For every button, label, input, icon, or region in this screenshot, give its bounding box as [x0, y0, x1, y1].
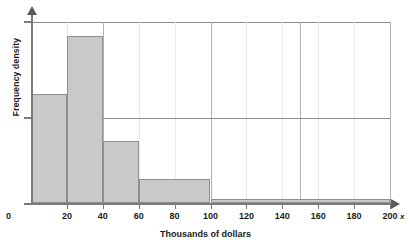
- x-axis-line: [24, 203, 393, 205]
- x-tick-100: [211, 203, 212, 209]
- gridline-x-200: [390, 22, 391, 203]
- x-tick-60: [139, 203, 140, 209]
- y-axis-line: [31, 14, 33, 203]
- histogram-bar: [103, 141, 139, 203]
- x-tick-20: [67, 203, 68, 209]
- x-tick-140: [282, 203, 283, 209]
- x-axis-arrow-icon: [391, 199, 400, 209]
- gridline-x-100: [211, 22, 212, 203]
- x-tick-label-40: 40: [88, 211, 118, 221]
- x-tick-label-60: 60: [124, 211, 154, 221]
- gridline-x-160: [318, 22, 319, 203]
- x-tick-180: [354, 203, 355, 209]
- gridline-x-150: [300, 22, 301, 203]
- x-tick-120: [246, 203, 247, 209]
- gridline-x-140: [282, 22, 283, 203]
- plot-area: [31, 22, 390, 203]
- x-tick-label-120: 120: [231, 211, 261, 221]
- x-axis-title: Thousands of dollars: [0, 229, 411, 239]
- gridline-x-180: [354, 22, 355, 203]
- histogram-chart: 20406080100120140160180200 0 x Frequency…: [0, 0, 411, 247]
- x-tick-label-140: 140: [267, 211, 297, 221]
- histogram-bar: [31, 94, 67, 203]
- x-tick-label-180: 180: [339, 211, 369, 221]
- histogram-bar: [67, 36, 103, 203]
- x-tick-160: [318, 203, 319, 209]
- y-axis-title: Frequency density: [11, 17, 21, 137]
- x-axis-variable-label: x: [400, 212, 404, 221]
- x-tick-label-20: 20: [52, 211, 82, 221]
- x-tick-label-80: 80: [160, 211, 190, 221]
- gridline-x-80: [175, 22, 176, 203]
- x-tick-200: [390, 203, 391, 209]
- x-axis-origin-label: 0: [6, 211, 11, 221]
- gridline-x-60: [139, 22, 140, 203]
- histogram-bar: [139, 179, 211, 203]
- x-tick-label-160: 160: [303, 211, 333, 221]
- y-axis-arrow-icon: [27, 6, 37, 15]
- y-axis-tick-upper: [24, 21, 32, 23]
- x-tick-label-100: 100: [196, 211, 226, 221]
- x-tick-40: [103, 203, 104, 209]
- y-axis-tick-mid: [24, 117, 32, 119]
- gridline-x-120: [246, 22, 247, 203]
- x-tick-80: [175, 203, 176, 209]
